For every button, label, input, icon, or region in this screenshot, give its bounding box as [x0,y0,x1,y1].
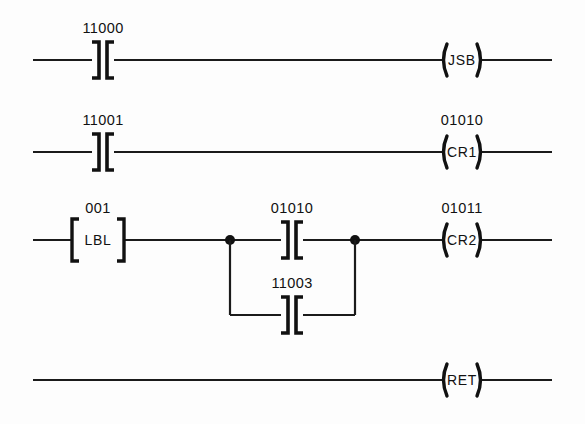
contact-blade-right [107,42,114,78]
coil-cr2[interactable]: CR2 01011 [441,200,482,256]
contact-blade-right [296,222,303,258]
block-lbl-label: LBL [84,232,111,248]
coil-jsb-label: JSB [448,52,476,68]
contact-11000-address: 11000 [82,20,123,36]
contact-11003[interactable]: 11003 [271,275,312,333]
contact-blade-left [281,297,288,333]
rung-2: 11001 CR1 01010 [33,112,552,170]
contact-01010[interactable]: 01010 [271,200,313,258]
rung-3: LBL 001 01010 CR2 01011 11003 [33,200,552,333]
coil-jsb[interactable]: JSB [444,44,481,76]
contact-11003-address: 11003 [271,275,312,291]
coil-cr2-label: CR2 [447,232,477,248]
contact-11000[interactable]: 11000 [82,20,123,78]
contact-11001-address: 11001 [82,112,123,128]
contact-blade-left [281,222,288,258]
coil-cr1-address: 01010 [441,112,483,128]
contact-blade-right [296,297,303,333]
coil-arc-right [477,136,481,168]
contact-blade-left [92,134,99,170]
coil-cr1[interactable]: CR1 01010 [441,112,483,168]
contact-11001[interactable]: 11001 [82,112,123,170]
coil-ret[interactable]: RET [444,364,481,396]
contact-blade-left [92,42,99,78]
block-lbl-address: 001 [85,200,110,216]
block-bracket-right [117,219,124,261]
contact-01010-address: 01010 [271,200,313,216]
branch-1: 11003 [230,240,355,333]
coil-cr2-address: 01011 [441,200,482,216]
coil-arc-right [477,224,481,256]
rung-1: 11000 JSB [33,20,552,78]
coil-arc-right [477,364,481,396]
rung-4: RET [33,364,552,396]
ladder-logic-diagram: 11000 JSB 11001 CR1 01010 [0,0,585,424]
contact-blade-right [107,134,114,170]
block-bracket-left [72,219,79,261]
coil-arc-right [477,44,481,76]
coil-arc-left [444,44,448,76]
block-lbl-001[interactable]: LBL 001 [72,200,124,261]
coil-cr1-label: CR1 [447,144,477,160]
coil-ret-label: RET [447,372,477,388]
